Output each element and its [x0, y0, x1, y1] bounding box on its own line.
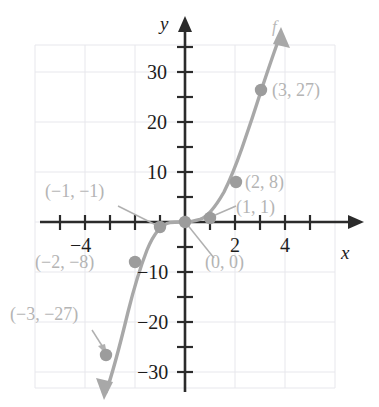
y-tick-label-10: 10 — [147, 162, 167, 182]
y-axis — [177, 16, 193, 392]
point-3-27 — [255, 84, 267, 96]
y-tick-label-neg10: −10 — [137, 262, 168, 282]
point-label-1-1: (1, 1) — [236, 198, 275, 216]
x-axis-label: x — [341, 243, 349, 262]
curve-label-f: f — [272, 18, 277, 35]
point-neg3-neg27 — [100, 349, 112, 361]
point-2-8 — [230, 176, 242, 188]
y-tick-label-neg20: −20 — [137, 312, 168, 332]
point-label-neg3-neg27: (−3, −27) — [10, 305, 78, 323]
cubic-function-plot — [0, 0, 379, 407]
x-tick-label-4: 4 — [280, 235, 290, 255]
point-1-1 — [204, 212, 216, 224]
y-tick-label-30: 30 — [147, 62, 167, 82]
graph-figure: 30 20 10 −10 −20 −30 −4 2 4 y x f (3, 27… — [0, 0, 379, 407]
point-label-0-0: (0, 0) — [205, 253, 244, 271]
point-label-neg2-neg8: (−2, −8) — [35, 253, 94, 271]
point-label-neg1-neg1: (−1, −1) — [45, 182, 104, 200]
point-neg1-neg1 — [154, 221, 166, 233]
point-0-0 — [179, 216, 191, 228]
y-axis-label: y — [160, 14, 168, 33]
y-tick-label-neg30: −30 — [137, 362, 168, 382]
point-label-2-8: (2, 8) — [245, 173, 284, 191]
point-label-3-27: (3, 27) — [272, 81, 320, 99]
y-tick-label-20: 20 — [147, 112, 167, 132]
